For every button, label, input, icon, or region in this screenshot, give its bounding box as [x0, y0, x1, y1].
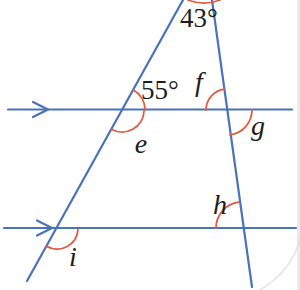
angle-label-g: g: [251, 110, 265, 141]
left-transversal-line: [27, 0, 183, 281]
angle-label-i: i: [69, 241, 77, 272]
angle-label-55: 55°: [141, 75, 179, 105]
geometry-diagram: 43°55°feghi: [0, 0, 300, 290]
right-transversal-line: [212, 0, 252, 287]
angle-label-43: 43°: [180, 3, 218, 33]
geometry-figure: 43°55°feghi: [0, 0, 300, 290]
angle-label-e: e: [135, 128, 147, 159]
page-curl-edge: [258, 238, 300, 290]
angle-arc-f: [206, 89, 224, 110]
angle-label-h: h: [213, 189, 227, 220]
angle-arc-g: [230, 110, 252, 135]
angle-label-f: f: [195, 66, 206, 97]
